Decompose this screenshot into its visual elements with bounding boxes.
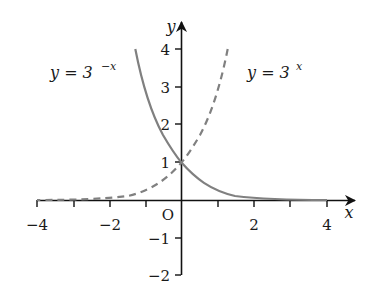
- exponential-graph: −4 −2 2 4 −2 −1 1 2 3 4 O x y y = 3 −x y…: [0, 0, 373, 301]
- label-3-pow-x: y = 3 x: [246, 60, 303, 82]
- svg-text:4: 4: [160, 41, 170, 59]
- svg-text:−1: −1: [148, 230, 170, 248]
- svg-text:1: 1: [160, 154, 170, 172]
- label-3-pow-neg-x: y = 3 −x: [49, 60, 117, 82]
- svg-text:2: 2: [249, 216, 259, 234]
- y-tick-labels: −2 −1 1 2 3 4: [148, 41, 170, 285]
- svg-text:−2: −2: [99, 216, 121, 234]
- origin-label: O: [162, 206, 174, 224]
- svg-text:y = 3 −x: y = 3 −x: [49, 60, 117, 82]
- svg-text:−2: −2: [148, 267, 170, 285]
- y-axis-label: y: [165, 17, 176, 36]
- svg-text:3: 3: [160, 79, 170, 97]
- svg-text:−4: −4: [26, 216, 48, 234]
- x-axis-label: x: [344, 203, 353, 222]
- svg-text:4: 4: [322, 216, 332, 234]
- svg-text:y = 3 x: y = 3 x: [246, 60, 303, 82]
- x-tick-labels: −4 −2 2 4: [26, 216, 332, 234]
